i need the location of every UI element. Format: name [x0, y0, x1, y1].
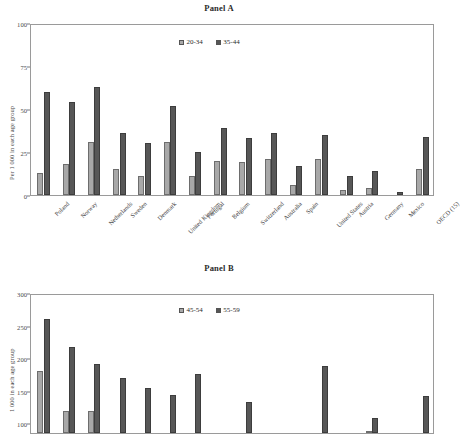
bar-35-44-sweden	[120, 133, 126, 195]
bar-group	[258, 293, 283, 433]
bar-35-44-austria	[347, 176, 353, 195]
x-axis-label-mexico: Mexico	[407, 200, 426, 219]
y-axis-tick-label: 250	[0, 323, 27, 330]
bar-group	[132, 23, 157, 195]
bar-35-44-united-kingdom	[170, 106, 176, 195]
bar-group	[410, 293, 435, 433]
bar-55-59-switzerland	[246, 402, 252, 433]
bar-group	[309, 293, 334, 433]
bar-group	[56, 23, 81, 195]
bar-20-34-germany	[366, 188, 372, 195]
bar-55-59-united-states	[322, 366, 328, 433]
bar-35-44-switzerland	[246, 138, 252, 195]
bar-20-34-portugal	[189, 176, 195, 195]
x-axis-label-denmark: Denmark	[155, 200, 177, 222]
x-axis-label-poland: Poland	[53, 200, 70, 217]
bar-group	[157, 23, 182, 195]
bar-20-34-australia	[265, 159, 271, 195]
bar-55-59-united-kingdom	[170, 395, 176, 433]
y-axis-tick-label: 300	[0, 291, 27, 298]
panel-b: Panel B 1 000 in each age group 10015020…	[0, 260, 438, 419]
panel-b-title: Panel B	[0, 263, 438, 273]
bar-group	[233, 23, 258, 195]
bar-55-59-norway	[69, 347, 75, 433]
bar-group	[107, 23, 132, 195]
bar-20-34-austria	[340, 190, 346, 195]
bar-group	[82, 23, 107, 195]
y-axis-tick-label: 50	[0, 107, 27, 114]
x-axis-label-australia: Australia	[282, 200, 303, 221]
bar-20-34-norway	[63, 164, 69, 195]
bar-group	[183, 23, 208, 195]
bar-group	[183, 293, 208, 433]
x-axis-label-norway: Norway	[79, 200, 98, 219]
bar-group	[359, 23, 384, 195]
bar-45-54-norway	[63, 411, 69, 433]
y-axis-tick-label: 150	[0, 388, 27, 395]
bar-group	[107, 293, 132, 433]
x-axis-label-belgium: Belgium	[231, 200, 251, 220]
bar-35-44-united-states	[322, 135, 328, 195]
x-axis-label-oecd-15: OECD (15)	[435, 200, 461, 226]
bar-55-59-portugal	[195, 374, 201, 433]
bar-20-34-belgium	[214, 161, 220, 195]
bar-20-34-netherlands	[88, 142, 94, 195]
bar-35-44-norway	[69, 102, 75, 195]
bar-group	[359, 293, 384, 433]
bar-45-54-poland	[37, 371, 43, 433]
bar-35-44-netherlands	[94, 87, 100, 195]
y-axis-tick-label: 25	[0, 150, 27, 157]
panel-b-plot-area: 45-54 55-59	[30, 294, 434, 434]
bar-20-34-united-states	[315, 159, 321, 195]
bar-group	[31, 23, 56, 195]
panel-a-plot-area: 20-34 35-44	[30, 24, 434, 196]
bar-group	[284, 293, 309, 433]
bar-20-34-united-kingdom	[164, 142, 170, 195]
panel-a: Panel A Per 1 000 in each age group 0255…	[0, 0, 438, 260]
bar-20-34-oecd-15	[416, 169, 422, 195]
bar-35-44-denmark	[145, 143, 151, 195]
bar-55-59-poland	[44, 319, 50, 433]
bar-55-59-denmark	[145, 388, 151, 433]
x-axis-label-germany: Germany	[383, 200, 405, 222]
bar-35-44-belgium	[221, 128, 227, 195]
bar-20-34-spain	[290, 185, 296, 195]
y-axis-tick-label: 200	[0, 356, 27, 363]
bar-35-44-mexico	[397, 192, 403, 195]
bar-group	[385, 293, 410, 433]
x-axis-label-portugal: Portugal	[205, 200, 225, 220]
panel-b-bars	[31, 295, 433, 433]
bar-45-54-germany	[366, 431, 372, 433]
bar-35-44-oecd-15	[423, 137, 429, 195]
bar-20-34-switzerland	[239, 162, 245, 195]
bar-35-44-portugal	[195, 152, 201, 195]
bar-group	[284, 23, 309, 195]
y-axis-tick-label: 75	[0, 64, 27, 71]
x-axis-label-spain: Spain	[304, 200, 319, 215]
bar-55-59-sweden	[120, 378, 126, 433]
bar-group	[334, 23, 359, 195]
y-axis-tick-label: 0	[0, 193, 27, 200]
bar-55-59-netherlands	[94, 364, 100, 433]
bar-35-44-germany	[372, 171, 378, 195]
bar-group	[385, 23, 410, 195]
y-axis-tick-label: 100	[0, 421, 27, 428]
bar-group	[233, 293, 258, 433]
bar-55-59-oecd-15	[423, 396, 429, 433]
bar-55-59-germany	[372, 418, 378, 433]
bar-group	[334, 293, 359, 433]
bar-group	[258, 23, 283, 195]
bar-45-54-netherlands	[88, 411, 94, 433]
y-axis-tick-label: 100	[0, 21, 27, 28]
bar-35-44-spain	[296, 166, 302, 195]
bar-group	[309, 23, 334, 195]
panel-a-title: Panel A	[0, 3, 438, 13]
bar-group	[157, 293, 182, 433]
bar-20-34-poland	[37, 173, 43, 195]
bar-group	[410, 23, 435, 195]
bar-35-44-australia	[271, 133, 277, 195]
bar-group	[56, 293, 81, 433]
bar-20-34-denmark	[138, 176, 144, 195]
bar-group	[208, 23, 233, 195]
bar-group	[208, 293, 233, 433]
